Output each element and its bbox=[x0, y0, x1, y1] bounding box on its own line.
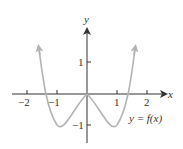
curve-arrow-right bbox=[134, 46, 136, 55]
x-tick-label-neg2: −2 bbox=[18, 96, 30, 108]
y-tick-label-neg1: −1 bbox=[72, 119, 84, 131]
x-tick-label-neg1: −1 bbox=[48, 96, 60, 108]
x-tick-label-2: 2 bbox=[144, 96, 150, 108]
function-label: y = f(x) bbox=[128, 112, 162, 125]
curve-arrow-left bbox=[39, 46, 41, 55]
x-axis-label: x bbox=[167, 88, 173, 100]
y-tick-label-1: 1 bbox=[78, 56, 84, 68]
x-tick-label-1: 1 bbox=[114, 96, 120, 108]
function-graph: y x −2 −1 1 2 1 −1 y = f(x) bbox=[0, 0, 183, 149]
y-axis-label: y bbox=[83, 13, 89, 25]
